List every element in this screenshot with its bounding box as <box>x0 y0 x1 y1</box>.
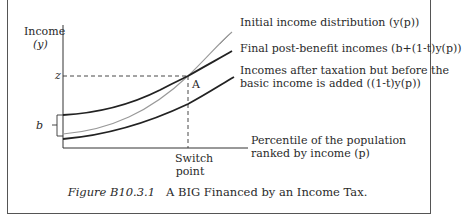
y-axis-label: Income (y) <box>24 25 65 51</box>
x-axis-label-line2: ranked by income (p) <box>251 147 406 160</box>
figure-label: Figure B10.3.1 <box>68 185 155 199</box>
legend-final: Final post-benefit incomes (b+(1-t)y(p)) <box>240 42 462 55</box>
y-axis-label-line2: (y) <box>24 38 65 51</box>
leader-initial <box>220 33 231 44</box>
b-label: b <box>36 119 43 132</box>
y-axis-label-line1: Income <box>24 25 65 38</box>
final-income-curve <box>63 51 232 115</box>
switch-point-label: Switch point <box>175 152 205 178</box>
x-axis-label: Percentile of the population ranked by i… <box>251 134 406 160</box>
legend-initial: Initial income distribution (y(p)) <box>240 16 419 29</box>
figure-caption: Figure B10.3.1 A BIG Financed by an Inco… <box>0 185 435 199</box>
point-a-label: A <box>192 78 200 91</box>
legend-after-tax-line1: Incomes after taxation but before the <box>240 64 449 77</box>
legend-after-tax-line2: basic income is added ((1-t)y(p)) <box>240 77 449 90</box>
z-label: z <box>55 69 61 82</box>
figure-title: A BIG Financed by an Income Tax. <box>166 185 367 199</box>
legend-after-tax: Incomes after taxation but before the ba… <box>240 64 449 90</box>
switch-label-line2: point <box>175 165 205 178</box>
switch-label-line1: Switch <box>175 152 205 165</box>
x-axis-label-line1: Percentile of the population <box>251 134 406 147</box>
initial-income-curve <box>63 32 232 134</box>
b-brace <box>52 115 63 136</box>
